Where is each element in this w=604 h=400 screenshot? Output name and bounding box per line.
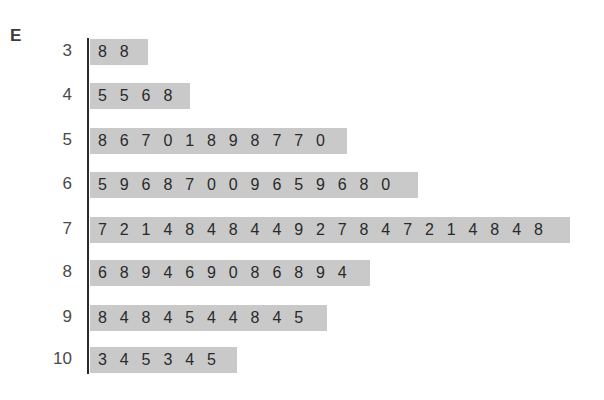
- leaf-digit: 4: [272, 221, 294, 239]
- leaf-digit: 8: [163, 176, 185, 194]
- leaf-digit: 1: [185, 132, 207, 150]
- leaf-digit: 8: [120, 264, 142, 282]
- leaf-digit: 2: [425, 221, 447, 239]
- leaf-digit: 5: [142, 351, 164, 369]
- leaf-digit: 7: [272, 132, 294, 150]
- leaf-bar: 8484544845: [90, 305, 327, 331]
- leaf-digit: 3: [98, 351, 120, 369]
- leaf-digit: 4: [272, 309, 294, 327]
- leaf-digit: 8: [251, 132, 273, 150]
- stem-value: 8: [0, 262, 72, 282]
- stem-row: 98484544845: [0, 305, 604, 331]
- leaf-digit: 8: [360, 176, 382, 194]
- leaf-bar: 689469086894: [90, 260, 370, 286]
- leaf-bar: 88: [90, 39, 148, 65]
- leaf-digit: 8: [360, 221, 382, 239]
- leaf-digit: 8: [229, 221, 251, 239]
- leaf-digit: 8: [98, 132, 120, 150]
- leaf-digit: 9: [207, 264, 229, 282]
- leaf-digit: 2: [316, 221, 338, 239]
- leaf-digit: 8: [534, 221, 556, 239]
- leaf-digit: 8: [142, 309, 164, 327]
- leaf-bar: 345345: [90, 347, 237, 373]
- leaf-digit: 0: [163, 132, 185, 150]
- leaf-digit: 4: [512, 221, 534, 239]
- leaf-digit: 8: [251, 264, 273, 282]
- leaf-digit: 4: [120, 351, 142, 369]
- leaf-digit: 0: [207, 176, 229, 194]
- leaf-digit: 4: [338, 264, 360, 282]
- leaf-digit: 9: [294, 221, 316, 239]
- stem-value: 10: [0, 349, 72, 369]
- leaf-digit: 9: [142, 264, 164, 282]
- leaf-digit: 8: [98, 43, 120, 61]
- leaf-digit: 5: [207, 351, 229, 369]
- leaf-digit: 0: [381, 176, 403, 194]
- leaf-digit: 6: [142, 176, 164, 194]
- leaf-digit: 4: [120, 309, 142, 327]
- leaf-digit: 6: [272, 176, 294, 194]
- stem-row: 8689469086894: [0, 260, 604, 286]
- leaf-digit: 8: [207, 132, 229, 150]
- leaf-digit: 6: [98, 264, 120, 282]
- leaf-digit: 7: [185, 176, 207, 194]
- leaf-digit: 4: [229, 309, 251, 327]
- leaf-bar: 86701898770: [90, 128, 347, 154]
- stem-value: 5: [0, 130, 72, 150]
- leaf-bar: 5568: [90, 83, 190, 109]
- stem-row: 659687009659680: [0, 172, 604, 198]
- leaf-digit: 0: [229, 264, 251, 282]
- leaf-digit: 1: [447, 221, 469, 239]
- leaf-digit: 5: [98, 176, 120, 194]
- leaf-digit: 0: [316, 132, 338, 150]
- leaf-digit: 4: [381, 221, 403, 239]
- leaf-digit: 7: [338, 221, 360, 239]
- stem-row: 7721484844927847214848: [0, 217, 604, 243]
- leaf-digit: 9: [120, 176, 142, 194]
- leaf-digit: 6: [338, 176, 360, 194]
- leaf-digit: 0: [229, 176, 251, 194]
- leaf-digit: 8: [185, 221, 207, 239]
- leaf-digit: 4: [469, 221, 491, 239]
- leaf-digit: 5: [294, 176, 316, 194]
- leaf-bar: 59687009659680: [90, 172, 418, 198]
- leaf-digit: 4: [163, 309, 185, 327]
- leaf-digit: 4: [163, 264, 185, 282]
- leaf-digit: 8: [120, 43, 142, 61]
- leaf-digit: 4: [185, 351, 207, 369]
- leaf-digit: 4: [207, 309, 229, 327]
- stem-value: 7: [0, 219, 72, 239]
- leaf-digit: 4: [163, 221, 185, 239]
- leaf-bar: 721484844927847214848: [90, 217, 570, 243]
- leaf-digit: 8: [251, 309, 273, 327]
- leaf-digit: 2: [120, 221, 142, 239]
- leaf-digit: 6: [120, 132, 142, 150]
- leaf-digit: 8: [163, 87, 185, 105]
- leaf-digit: 4: [251, 221, 273, 239]
- stem-value: 6: [0, 174, 72, 194]
- stem-row: 586701898770: [0, 128, 604, 154]
- leaf-digit: 6: [185, 264, 207, 282]
- leaf-digit: 1: [142, 221, 164, 239]
- leaf-digit: 5: [120, 87, 142, 105]
- leaf-digit: 8: [294, 264, 316, 282]
- leaf-digit: 9: [316, 264, 338, 282]
- stem-row: 388: [0, 39, 604, 65]
- leaf-digit: 5: [294, 309, 316, 327]
- stem-value: 9: [0, 307, 72, 327]
- leaf-digit: 4: [207, 221, 229, 239]
- leaf-digit: 7: [294, 132, 316, 150]
- leaf-digit: 9: [316, 176, 338, 194]
- stem-value: 3: [0, 41, 72, 61]
- leaf-digit: 7: [98, 221, 120, 239]
- leaf-digit: 5: [185, 309, 207, 327]
- stem-row: 10345345: [0, 347, 604, 373]
- leaf-digit: 8: [490, 221, 512, 239]
- leaf-digit: 8: [98, 309, 120, 327]
- leaf-digit: 7: [403, 221, 425, 239]
- leaf-digit: 7: [142, 132, 164, 150]
- leaf-digit: 5: [98, 87, 120, 105]
- leaf-digit: 6: [142, 87, 164, 105]
- leaf-digit: 9: [251, 176, 273, 194]
- leaf-digit: 9: [229, 132, 251, 150]
